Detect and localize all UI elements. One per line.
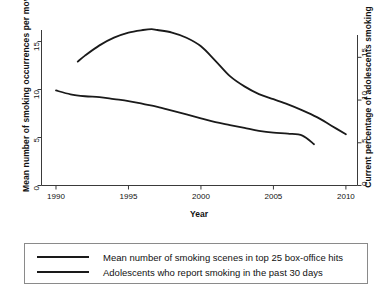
data-series bbox=[56, 29, 346, 144]
legend-line-icon bbox=[37, 256, 89, 258]
legend-item: Adolescents who report smoking in the pa… bbox=[37, 264, 323, 280]
x-tick-label: 2010 bbox=[337, 192, 355, 201]
x-tick-label: 1995 bbox=[120, 192, 138, 201]
legend-item-label: Adolescents who report smoking in the pa… bbox=[103, 267, 323, 278]
chart-legend: Mean number of smoking scenes in top 25 … bbox=[24, 243, 368, 284]
y-tick-label-left: 10 bbox=[31, 90, 40, 99]
x-tick-label: 2000 bbox=[192, 192, 210, 201]
legend-item: Mean number of smoking scenes in top 25 … bbox=[37, 249, 343, 265]
y-tick-label-right: 15 bbox=[359, 48, 368, 57]
x-tick-label: 2005 bbox=[265, 192, 283, 201]
y-tick-label-right: 5 bbox=[359, 138, 368, 142]
y-tick-label-right: 0 bbox=[359, 181, 368, 185]
legend-item-label: Mean number of smoking scenes in top 25 … bbox=[103, 252, 343, 263]
y-axis-left-title: Mean number of smoking occurrences per m… bbox=[21, 2, 31, 192]
y-tick-label-left: 0 bbox=[31, 186, 40, 190]
y-tick-label-right: 10 bbox=[359, 91, 368, 100]
y-tick-label-left: 15 bbox=[31, 42, 40, 51]
x-tick-label: 1990 bbox=[47, 192, 65, 201]
chart-figure: Mean number of smoking occurrences per m… bbox=[0, 0, 390, 294]
y-tick-label-left: 5 bbox=[31, 138, 40, 142]
x-axis-title: Year bbox=[41, 209, 357, 219]
legend-line-icon bbox=[37, 271, 89, 273]
